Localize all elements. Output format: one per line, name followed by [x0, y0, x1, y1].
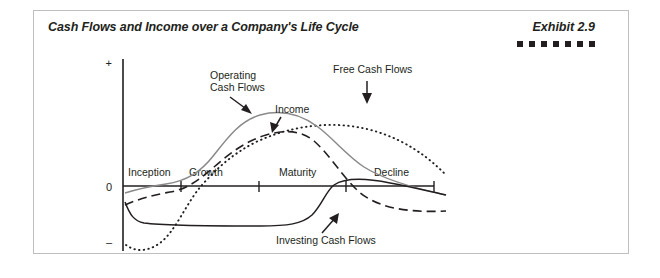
exhibit-number-label: Exhibit 2.9	[532, 20, 595, 34]
life-cycle-chart: + 0 – Inception Growth Maturity Decline …	[34, 45, 630, 255]
annotation-operating-line2: Cash Flows	[210, 81, 265, 93]
y-axis-label-zero: 0	[106, 181, 112, 193]
series-free-cash-flows	[126, 125, 446, 250]
exhibit-frame: Cash Flows and Income over a Company's L…	[33, 10, 629, 254]
stage-label-maturity: Maturity	[279, 166, 317, 178]
annotation-income-label: Income	[275, 103, 310, 115]
stage-label-decline: Decline	[374, 166, 409, 178]
series-operating-cash-flows	[125, 113, 446, 195]
page-title: Cash Flows and Income over a Company's L…	[48, 20, 359, 34]
annotation-fcf-label: Free Cash Flows	[333, 63, 412, 75]
chart-plot-area: + 0 – Inception Growth Maturity Decline …	[34, 45, 630, 255]
annotation-investing-label: Investing Cash Flows	[276, 234, 376, 246]
annotation-operating-line1: Operating	[210, 69, 256, 81]
annotation-fcf-arrow-head	[362, 93, 372, 104]
y-axis-label-negative: –	[106, 236, 113, 248]
y-axis-label-positive: +	[106, 57, 112, 69]
stage-label-inception: Inception	[128, 166, 171, 178]
